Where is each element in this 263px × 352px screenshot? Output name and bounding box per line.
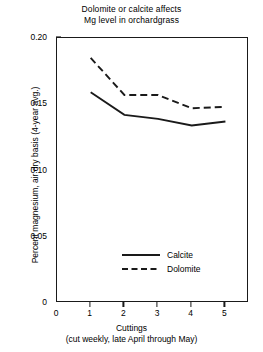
y-tick-label: 0.15 — [30, 98, 47, 108]
x-axis-subtitle: (cut weekly, late April through May) — [0, 334, 263, 345]
legend-item-calcite: Calcite — [122, 248, 201, 262]
legend-swatch-calcite — [122, 250, 160, 260]
series-line-calcite — [91, 92, 226, 125]
legend-label: Dolomite — [167, 264, 201, 274]
x-tick-label: 1 — [87, 308, 92, 318]
y-tick-label: 0 — [42, 297, 47, 307]
x-tick-label: 3 — [155, 308, 160, 318]
y-tick-label: 0.10 — [30, 165, 47, 175]
legend-label: Calcite — [167, 250, 193, 260]
chart-legend: CalciteDolomite — [122, 248, 201, 276]
y-tick-label: 0.05 — [30, 231, 47, 241]
legend-item-dolomite: Dolomite — [122, 262, 201, 276]
y-axis-ticks: 00.050.100.150.20 — [0, 0, 56, 352]
chart-page: Dolomite or calcite affects Mg level in … — [0, 0, 263, 352]
x-tick-label: 2 — [121, 308, 126, 318]
series-line-dolomite — [91, 58, 226, 108]
x-tick-label: 4 — [188, 308, 193, 318]
x-tick-label: 5 — [222, 308, 227, 318]
y-tick-label: 0.20 — [30, 32, 47, 42]
x-tick-label: 0 — [54, 308, 59, 318]
legend-swatch-dolomite — [122, 264, 160, 274]
x-axis-title: Cuttings — [0, 323, 263, 334]
